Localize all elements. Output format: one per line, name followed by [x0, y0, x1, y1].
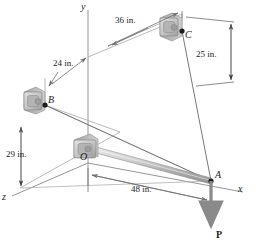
axis-label-x: x	[238, 184, 242, 194]
point-label-a: A	[215, 170, 221, 180]
c-lower-edge	[60, 80, 182, 118]
boom-oa	[96, 147, 211, 184]
c-sight-line	[88, 27, 160, 57]
statics-diagram: y x z O A B C 36 in. 24 in. 25 in. 29 in…	[0, 0, 256, 245]
axis-label-z: z	[2, 192, 6, 202]
dimension-label-25: 25 in.	[196, 50, 217, 59]
diagram-canvas	[0, 0, 256, 245]
dimension-label-29: 29 in.	[6, 150, 27, 159]
dimension-label-48: 48 in.	[131, 185, 152, 194]
z-axis-line	[12, 163, 88, 196]
support-bracket-b	[24, 87, 45, 114]
cable-ba	[45, 105, 211, 181]
support-bracket-c	[160, 13, 182, 41]
b-to-origin-line	[45, 105, 120, 132]
dimension-label-24: 24 in.	[53, 59, 74, 68]
axis-label-y: y	[81, 2, 85, 12]
point-label-o: O	[80, 152, 87, 162]
dimension-label-36: 36 in.	[115, 16, 136, 25]
node-c	[179, 28, 184, 33]
node-b	[42, 102, 47, 107]
b-lower-edge	[20, 132, 120, 188]
force-label-p: P	[216, 230, 222, 240]
point-label-b: B	[48, 95, 54, 105]
b-drop-line	[20, 105, 45, 188]
point-label-c: C	[185, 30, 192, 40]
ground-guide-1	[20, 181, 211, 188]
